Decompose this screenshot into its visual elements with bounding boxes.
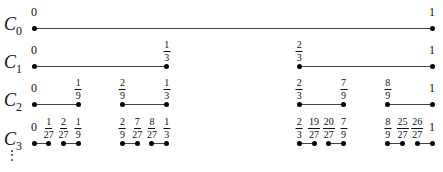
interval-segment (34, 104, 78, 105)
endpoint-dot (312, 141, 317, 146)
endpoint-label: 19 (75, 76, 82, 101)
endpoint-label: 1 (429, 44, 435, 56)
row-label-c2: C2 (4, 90, 22, 115)
endpoint-dot (76, 141, 81, 146)
endpoint-dot (430, 64, 435, 69)
endpoint-label: 827 (147, 115, 157, 140)
endpoint-dot (415, 141, 420, 146)
endpoint-dot (430, 102, 435, 107)
endpoint-label: 1 (429, 82, 435, 94)
endpoint-dot (430, 26, 435, 31)
row-label-c1: C1 (4, 52, 22, 77)
endpoint-dot (164, 64, 169, 69)
endpoint-dot (76, 102, 81, 107)
interval-segment (34, 28, 432, 29)
endpoint-dot (149, 141, 154, 146)
endpoint-dot (120, 102, 125, 107)
endpoint-label: 13 (163, 38, 170, 63)
endpoint-dot (32, 64, 37, 69)
interval-segment (299, 104, 343, 105)
endpoint-label: 89 (384, 115, 391, 140)
endpoint-label: 727 (132, 115, 142, 140)
row-label-c0: C0 (4, 14, 22, 39)
interval-segment (34, 66, 167, 67)
endpoint-label: 2627 (411, 115, 423, 140)
endpoint-label: 0 (31, 6, 37, 18)
endpoint-dot (385, 141, 390, 146)
endpoint-label: 2027 (323, 115, 335, 140)
endpoint-dot (385, 102, 390, 107)
endpoint-dot (32, 26, 37, 31)
endpoint-label: 13 (163, 76, 170, 101)
interval-segment (122, 104, 166, 105)
endpoint-label: 0 (31, 44, 37, 56)
interval-segment (388, 104, 432, 105)
endpoint-dot (32, 141, 37, 146)
endpoint-label: 0 (31, 121, 37, 133)
endpoint-label: 89 (384, 76, 391, 101)
endpoint-label: 23 (296, 76, 303, 101)
interval-segment (299, 66, 432, 67)
endpoint-label: 23 (296, 115, 303, 140)
endpoint-dot (326, 141, 331, 146)
endpoint-dot (297, 64, 302, 69)
endpoint-label: 227 (58, 115, 68, 140)
endpoint-label: 79 (340, 76, 347, 101)
continuation-dots: ⋮ (6, 152, 18, 158)
endpoint-dot (164, 102, 169, 107)
endpoint-dot (61, 141, 66, 146)
endpoint-dot (430, 141, 435, 146)
endpoint-label: 13 (163, 115, 170, 140)
endpoint-dot (400, 141, 405, 146)
endpoint-label: 2527 (397, 115, 409, 140)
endpoint-dot (135, 141, 140, 146)
endpoint-label: 0 (31, 82, 37, 94)
cantor-diagram: C001C1013231C201929132379891C30127227192… (0, 0, 443, 172)
endpoint-label: 127 (44, 115, 54, 140)
endpoint-label: 79 (340, 115, 347, 140)
endpoint-dot (120, 141, 125, 146)
endpoint-label: 1 (429, 6, 435, 18)
endpoint-label: 29 (119, 115, 126, 140)
endpoint-dot (297, 141, 302, 146)
endpoint-dot (32, 102, 37, 107)
endpoint-dot (341, 102, 346, 107)
endpoint-label: 29 (119, 76, 126, 101)
endpoint-label: 1 (429, 121, 435, 133)
endpoint-label: 19 (75, 115, 82, 140)
endpoint-dot (297, 102, 302, 107)
endpoint-label: 1927 (308, 115, 320, 140)
endpoint-dot (164, 141, 169, 146)
endpoint-dot (46, 141, 51, 146)
endpoint-label: 23 (296, 38, 303, 63)
endpoint-dot (341, 141, 346, 146)
